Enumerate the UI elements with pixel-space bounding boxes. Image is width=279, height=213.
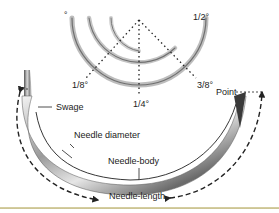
curvature-label-1-2: 1/2° — [193, 13, 209, 22]
needle-diameter-label: Needle diameter — [74, 131, 140, 140]
point-label: Point — [216, 88, 237, 97]
swage-label: Swage — [56, 103, 84, 112]
needle-body-label: Needle-body — [108, 157, 159, 166]
bottom-rule — [0, 207, 279, 209]
circle-marker-label: ° — [64, 11, 67, 20]
needle-length-label: Needle-length — [109, 192, 165, 201]
curvature-label-3-8: 3/8° — [197, 81, 213, 90]
curvature-label-1-4: 1/4° — [133, 100, 149, 109]
curvature-label-1-8: 1/8° — [72, 81, 88, 90]
